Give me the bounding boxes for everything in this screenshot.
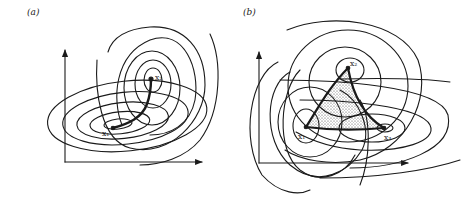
x1-point-icon (304, 125, 308, 129)
x1-point-icon (111, 126, 115, 130)
panel-b-x1-label: x₁ (298, 132, 305, 141)
panel-a-x1-label: x₁ (102, 129, 109, 138)
panel-a-contours-x2 (97, 27, 218, 165)
x2-point-icon (149, 77, 153, 81)
panel-a (44, 27, 218, 165)
panel-a-axes (65, 50, 202, 162)
panel-b-x3-label: x₃ (384, 133, 391, 142)
panel-a-contours-x1 (44, 73, 210, 159)
figure-canvas: x₁ x₂ (0, 0, 472, 199)
x3-point-icon (382, 126, 386, 130)
panel-b-x2-label: x₂ (350, 59, 357, 68)
panel-a-x2-label: x₂ (155, 73, 162, 82)
panel-b (250, 21, 460, 193)
